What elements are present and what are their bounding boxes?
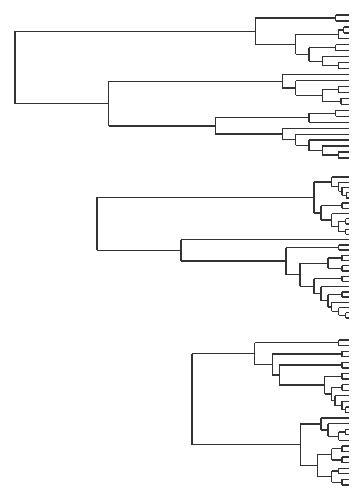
dendrogram-2 <box>97 177 349 318</box>
dendrogram-figure <box>0 0 364 489</box>
dendrogram-1 <box>15 15 349 158</box>
dendrogram-3 <box>192 340 349 485</box>
